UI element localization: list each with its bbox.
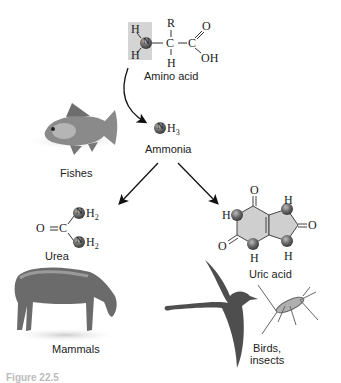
arrow-ammonia-to-uric-acid [178,163,217,203]
fishes-label: Fishes [60,167,92,179]
uric-acid-label: Uric acid [249,268,292,280]
nitrogen-atom-uric-1 [231,209,243,221]
nitrogen-atom-uric-2 [247,238,259,250]
amino-oh: OH [201,51,218,66]
ammonia-subscript: 3 [176,128,180,137]
uric-o-left: O [218,239,227,254]
urea-h-bottom: H [86,235,95,249]
insects-label: insects [250,354,284,366]
ammonia-h-text: H [167,121,176,135]
ammonia-h: H3 [167,121,180,137]
urea-label: Urea [45,250,69,262]
uric-h-bottom: H [250,251,259,266]
uric-o-right: O [308,218,317,233]
urea-n-bottom: N [76,235,83,245]
birds-label: Birds, [250,342,284,354]
ammonia-label: Ammonia [145,143,191,155]
urea-nh2-top: H2 [86,206,99,222]
amino-r: R [167,16,175,31]
urea-o: O [36,221,45,236]
urea-subscript-top: 2 [95,213,99,222]
amino-h-top: H [131,22,140,37]
insect-illustration [258,285,318,334]
arrow-amino-to-ammonia [124,68,145,122]
mammals-label: Mammals [52,343,100,355]
urea-nh2-bottom: H2 [86,235,99,251]
ammonia-n: N [157,121,164,131]
fish-illustration [25,103,125,155]
figure-caption: Figure 22.5 [6,372,59,383]
amino-acid-label: Amino acid [144,70,198,82]
urea-h-top: H [86,206,95,220]
uric-h-bottom-right: H [284,249,293,264]
amino-c-carboxyl: C [188,36,196,51]
horse-illustration [10,267,120,342]
amino-o: O [202,19,211,34]
uric-h-left: H [222,208,231,223]
amino-n: N [143,36,150,46]
urea-subscript-bottom: 2 [95,242,99,251]
urea-n-top: N [76,206,83,216]
birds-insects-label: Birds, insects [250,342,284,366]
amino-h-alpha: H [167,56,176,71]
bird-illustration [165,260,258,368]
amino-h-bottom: H [131,48,140,63]
uric-o-top: O [250,183,259,198]
arrow-ammonia-to-urea [120,163,158,203]
amino-c-alpha: C [166,36,174,51]
nitrogen-atom-uric-4 [281,235,293,247]
urea-c: C [59,221,67,236]
uric-h-top-right: H [284,193,293,208]
